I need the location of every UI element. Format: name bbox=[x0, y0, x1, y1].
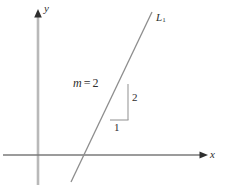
figure-canvas bbox=[0, 0, 227, 190]
line-l1 bbox=[71, 12, 152, 182]
slope-operator: = bbox=[82, 76, 93, 90]
x-axis-arrowhead bbox=[200, 151, 209, 158]
slope-value: 2 bbox=[92, 76, 98, 90]
x-axis-label: x bbox=[210, 149, 215, 160]
slope-equation-label: m=2 bbox=[73, 77, 98, 89]
rise-label: 2 bbox=[132, 92, 138, 103]
run-label: 1 bbox=[114, 122, 120, 133]
y-axis-arrowhead bbox=[34, 9, 42, 18]
line-label-l1: L1 bbox=[156, 12, 166, 24]
slope-diagram-figure: y x L1 m=2 2 1 bbox=[0, 0, 227, 190]
y-axis-label: y bbox=[44, 3, 49, 14]
line-label-subscript: 1 bbox=[162, 16, 166, 24]
slope-variable: m bbox=[73, 76, 82, 90]
